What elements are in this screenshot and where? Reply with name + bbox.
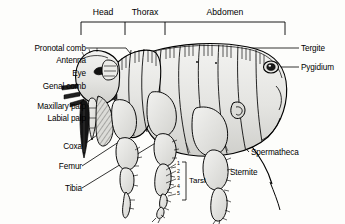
segment-label-thorax: Thorax — [125, 7, 165, 17]
label-tibia: Tibia — [0, 184, 84, 193]
label-coxa: Coxa — [0, 142, 84, 151]
label-tergite: Tergite — [301, 44, 325, 53]
lacinia — [96, 96, 113, 146]
label-sternite: Sternite — [230, 168, 257, 177]
label-eye: Eye — [0, 69, 88, 78]
label-labial-palp: Labial palp — [0, 114, 88, 123]
hind-leg-near — [192, 107, 232, 221]
flea-anatomy-figure: Head Thorax Abdomen Pronotal comb Antenn… — [0, 0, 345, 224]
label-maxillary-palp: Maxillary palp — [0, 102, 88, 111]
label-antenna: Antenna — [0, 56, 88, 65]
label-genal-comb: Genal comb — [0, 82, 88, 91]
tarsus-number-3: 3 — [177, 176, 180, 181]
tarsus-number-2: 2 — [177, 169, 180, 174]
tarsus-number-4: 4 — [177, 184, 180, 189]
antenna-organ — [102, 60, 118, 80]
segment-label-head: Head — [81, 7, 125, 17]
femur-segment — [116, 138, 138, 170]
label-femur: Femur — [0, 162, 84, 171]
tibia-segment — [120, 168, 134, 194]
tarsal-claws — [152, 218, 220, 224]
label-tarsi: Tarsi — [189, 176, 206, 185]
segment-label-abdomen: Abdomen — [165, 7, 285, 17]
label-spermatheca: Spermatheca — [251, 148, 299, 157]
label-pygidium: Pygidium — [301, 63, 334, 72]
segment-brackets — [81, 22, 285, 35]
middle-leg — [147, 92, 179, 219]
pygidium-organ — [264, 61, 279, 73]
label-pronotal-comb: Pronotal comb — [0, 44, 88, 53]
tarsus-number-5: 5 — [177, 191, 180, 196]
spermatheca-organ — [231, 102, 245, 119]
tarsus-number-1: 1 — [177, 161, 180, 166]
